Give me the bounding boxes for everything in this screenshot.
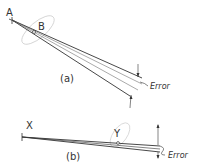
caption-a: (a): [60, 73, 74, 84]
error-diagram: A B Error (a) X Y Error (b): [0, 0, 209, 162]
lower-bound-line: [12, 20, 130, 96]
figure-a: A B Error (a): [6, 7, 171, 108]
point-b-marker: [33, 31, 36, 34]
caption-b: (b): [66, 151, 80, 162]
label-y: Y: [113, 128, 121, 139]
error-label-b: Error: [168, 151, 189, 160]
error-leader-b: [160, 146, 165, 155]
error-label-a: Error: [150, 82, 171, 91]
figure-b: X Y Error (b): [22, 120, 189, 162]
label-a: A: [6, 7, 13, 18]
upper-bound-line: [12, 20, 142, 78]
label-x: X: [26, 120, 33, 131]
center-line: [12, 20, 142, 84]
error-leader-a: [140, 82, 148, 86]
point-y-marker: [117, 142, 120, 145]
label-b: B: [38, 21, 45, 32]
